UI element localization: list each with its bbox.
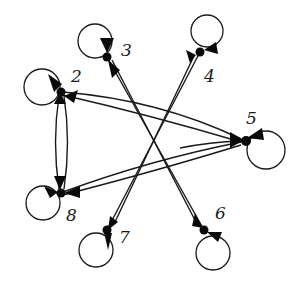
self-loop-4 — [191, 15, 223, 47]
node-4 — [196, 48, 205, 57]
edge-6-3 — [112, 60, 197, 224]
node-2 — [57, 88, 66, 97]
node-label-2: 2 — [70, 66, 82, 86]
node-7 — [103, 226, 112, 235]
node-8 — [57, 189, 66, 198]
node-label-5: 5 — [246, 108, 257, 128]
edge-2-5 — [63, 92, 241, 139]
edge-8-5 — [63, 142, 241, 192]
arrowhead-icon — [192, 213, 203, 228]
edge-2-8 — [56, 96, 60, 189]
node-label-4: 4 — [203, 66, 215, 86]
node-3 — [103, 53, 112, 62]
node-label-8: 8 — [66, 205, 77, 225]
node-5 — [241, 136, 251, 146]
self-loop-6 — [196, 236, 230, 270]
graph-diagram: 2 3 4 5 6 7 8 — [0, 0, 308, 287]
edge-5-8 — [63, 145, 241, 195]
edge-8-2 — [64, 96, 68, 189]
arrowhead-icon — [204, 42, 218, 54]
arrowhead-icon — [64, 186, 80, 198]
node-label-7: 7 — [119, 227, 130, 247]
edge-7-4 — [114, 58, 193, 224]
node-label-6: 6 — [215, 203, 226, 223]
node-6 — [200, 226, 209, 235]
node-label-3: 3 — [121, 40, 132, 60]
edge-5-2 — [63, 95, 241, 142]
